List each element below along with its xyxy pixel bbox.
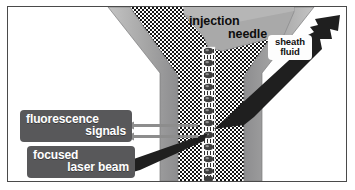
label-sheath-fluid-line2: fluid xyxy=(272,47,308,57)
label-focused-laser-beam: focused laser beam xyxy=(27,146,135,178)
label-fluorescence-signals-line2: signals xyxy=(26,125,126,137)
label-sheath-fluid: sheath fluid xyxy=(268,35,312,60)
label-injection-needle: injection needle xyxy=(189,15,267,41)
flow-cytometry-diagram: injection needle sheath fluid fluorescen… xyxy=(0,0,355,190)
label-injection-needle-line2: needle xyxy=(189,28,267,41)
label-fluorescence-signals: fluorescence signals xyxy=(20,110,132,142)
label-focused-laser-beam-line2: laser beam xyxy=(33,161,129,173)
